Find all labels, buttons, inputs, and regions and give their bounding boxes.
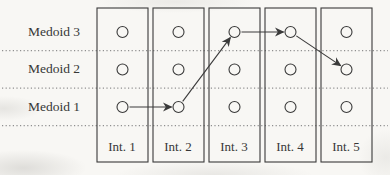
column-label-int-2: Int. 2 (152, 139, 204, 155)
medoid-circle (285, 27, 296, 38)
medoid-trajectory-segment (183, 38, 231, 102)
medoid-circle (285, 102, 296, 113)
row-label-medoid-3: Medoid 3 (18, 23, 90, 41)
medoid-circle (117, 27, 128, 38)
medoid-circle (341, 102, 352, 113)
medoid-circle (341, 64, 352, 75)
column-label-int-1: Int. 1 (96, 139, 148, 155)
medoid-circle (117, 102, 128, 113)
medoid-circle (229, 27, 240, 38)
column-label-int-3: Int. 3 (208, 139, 260, 155)
medoid-circle (229, 64, 240, 75)
column-label-int-5: Int. 5 (320, 139, 372, 155)
medoid-circle (341, 27, 352, 38)
medoid-circle (173, 102, 184, 113)
medoid-circle (117, 64, 128, 75)
medoid-circle (173, 27, 184, 38)
medoid-circle (173, 64, 184, 75)
medoid-circle (229, 102, 240, 113)
row-label-medoid-2: Medoid 2 (18, 60, 90, 78)
medoid-interval-figure: Medoid 3 Medoid 2 Medoid 1 Int. 1 Int. 2… (0, 0, 390, 175)
column-label-int-4: Int. 4 (264, 139, 316, 155)
row-label-medoid-1: Medoid 1 (18, 98, 90, 116)
medoid-circle (285, 64, 296, 75)
